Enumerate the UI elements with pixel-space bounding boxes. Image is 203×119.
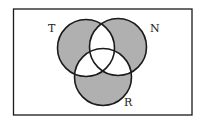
label-r: R (124, 96, 133, 109)
label-t: T (48, 22, 56, 35)
venn-diagram: T N R (0, 0, 203, 119)
label-n: N (150, 22, 160, 35)
